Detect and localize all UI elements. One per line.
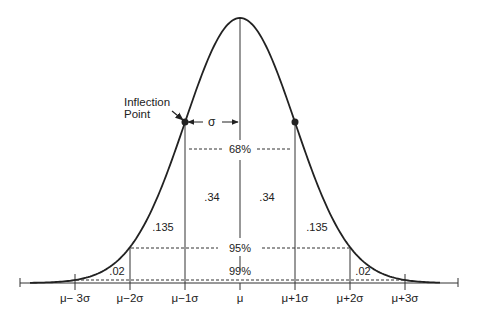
sigma-label: σ [208, 115, 216, 129]
inflection-point-right [292, 119, 299, 126]
label-68-pct: 68% [229, 143, 251, 155]
area-tail-right: .02 [355, 265, 370, 277]
area-mid-left: .135 [152, 221, 173, 233]
tick-mu-plus-2sigma: μ+2σ [337, 292, 364, 304]
area-inner-left: .34 [204, 191, 219, 203]
area-inner-right: .34 [259, 191, 274, 203]
area-tail-left: .02 [109, 265, 124, 277]
tick-mu: μ [237, 292, 244, 304]
label-95-pct: 95% [229, 242, 251, 254]
tick-mu-minus-1sigma: μ−1σ [172, 292, 199, 304]
area-mid-right: .135 [306, 221, 327, 233]
normal-distribution-diagram: Inflection Point σ 68% 95% 99% .34 .34 .… [0, 0, 478, 319]
tick-mu-minus-3sigma: μ− 3σ [60, 292, 90, 304]
inflection-arrow [172, 111, 183, 120]
label-99-pct: 99% [229, 265, 251, 277]
inflection-label-line2: Point [124, 108, 151, 120]
tick-mu-plus-1sigma: μ+1σ [282, 292, 309, 304]
inflection-label-line1: Inflection [124, 96, 170, 108]
diagram-canvas: Inflection Point σ 68% 95% 99% .34 .34 .… [0, 0, 478, 319]
tick-mu-plus-3sigma: μ+3σ [392, 292, 419, 304]
axis-tick-labels: μ− 3σ μ−2σ μ−1σ μ μ+1σ μ+2σ μ+3σ [60, 292, 418, 304]
tick-mu-minus-2sigma: μ−2σ [117, 292, 144, 304]
